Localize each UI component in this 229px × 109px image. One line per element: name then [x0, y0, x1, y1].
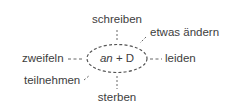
preposition: an [100, 52, 113, 64]
verb-sterben: sterben [98, 91, 136, 104]
word-web-diagram: an + D schreiben etwas ändern zweifeln l… [0, 0, 229, 109]
connector-bottom-left [84, 75, 90, 80]
verb-etwas-aendern: etwas ändern [150, 26, 219, 39]
verb-zweifeln: zweifeln [22, 52, 64, 65]
connector-text: + [113, 52, 126, 64]
verb-leiden: leiden [165, 52, 196, 65]
center-node: an + D [100, 52, 134, 65]
connector-top-right [140, 37, 146, 43]
verb-schreiben: schreiben [92, 13, 142, 26]
verb-teilnehmen: teilnehmen [24, 74, 80, 87]
case-label: D [126, 52, 134, 64]
